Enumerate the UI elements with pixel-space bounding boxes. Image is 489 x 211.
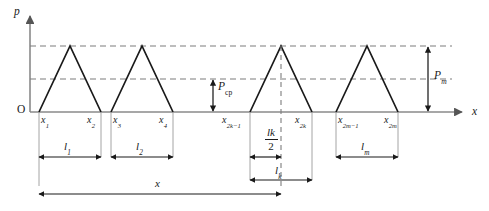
lk-label: lk xyxy=(275,165,281,179)
tick-label-x2: x2 xyxy=(87,115,95,128)
l2-label: l2 xyxy=(136,141,143,155)
tick-label-x3: x3 xyxy=(113,115,121,128)
tick-base-x2m: x xyxy=(384,114,388,125)
lm-label: lm xyxy=(361,141,369,155)
lk-half-denominator: 2 xyxy=(258,140,284,152)
dimension-arrows-group xyxy=(39,157,398,194)
origin-label: O xyxy=(17,104,25,116)
tick-sub-x4: 4 xyxy=(164,122,167,129)
l1-sub: 1 xyxy=(67,149,71,157)
tick-base-x3: x xyxy=(113,114,117,125)
l2-sub: 2 xyxy=(139,149,143,157)
lk-half-label: lk 2 xyxy=(258,127,284,152)
tick-label-x2m-1: x2m−1 xyxy=(338,115,358,128)
tick-label-x4: x4 xyxy=(159,115,167,128)
tick-label-x2m: x2m xyxy=(384,115,397,128)
x-total-label: x xyxy=(155,178,160,189)
p-m-sub: m xyxy=(441,77,446,86)
tick-base-x2k-1: x xyxy=(222,114,226,125)
tick-base-x2k: x xyxy=(295,114,299,125)
lk-sub: k xyxy=(278,173,281,181)
tick-base-x2m-1: x xyxy=(338,114,342,125)
reference-lines-group xyxy=(30,46,452,79)
diagram-root: p x O x1 x2 x3 x4 x2k−1 x2k x2m−1 x2m Pc… xyxy=(0,0,489,211)
tick-base-x2: x xyxy=(87,114,91,125)
tick-sub-x2m: 2m xyxy=(389,122,397,129)
tick-sub-x2m-1: 2m−1 xyxy=(343,122,359,129)
x-axis-label: x xyxy=(472,106,477,118)
tick-sub-x2: 2 xyxy=(92,122,95,129)
p-cp-base: P xyxy=(218,80,225,92)
tick-label-x1: x1 xyxy=(41,115,49,128)
lk-half-sub: k xyxy=(270,126,275,138)
lk-half-numerator: lk xyxy=(258,127,284,139)
tick-sub-x2k-1: 2k−1 xyxy=(227,122,241,129)
p-cp-sub: cp xyxy=(225,88,232,97)
tick-sub-x3: 3 xyxy=(118,122,121,129)
load-pulse-diagram xyxy=(0,0,489,211)
tick-sub-x1: 1 xyxy=(46,122,49,129)
tick-base-x1: x xyxy=(41,114,45,125)
tick-label-x2k-1: x2k−1 xyxy=(222,115,240,128)
p-cp-label: Pcp xyxy=(218,81,232,95)
tick-base-x4: x xyxy=(159,114,163,125)
tick-label-x2k: x2k xyxy=(295,115,306,128)
p-m-label: Pm xyxy=(434,70,447,84)
p-m-base: P xyxy=(434,69,441,81)
tick-sub-x2k: 2k xyxy=(300,122,306,129)
lm-sub: m xyxy=(364,149,369,157)
y-axis-label: p xyxy=(14,6,20,18)
l1-label: l1 xyxy=(64,141,71,155)
